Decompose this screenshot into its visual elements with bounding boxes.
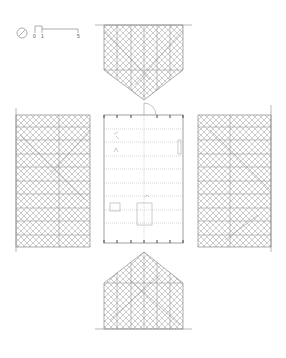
- scale-bar: 0 1 5: [33, 26, 80, 39]
- floor-plan: [104, 103, 183, 243]
- right-elevation: [198, 105, 271, 252]
- door-swing: [144, 103, 156, 115]
- scale-tick-0: 0: [33, 33, 36, 39]
- legend: 0 1 5: [17, 26, 80, 39]
- north-arrow-icon: [17, 28, 27, 38]
- scale-tick-1: 1: [41, 33, 44, 39]
- scale-tick-5: 5: [77, 33, 80, 39]
- architectural-drawing: 0 1 5: [0, 0, 286, 358]
- bottom-elevation: [95, 250, 192, 332]
- top-elevation: [95, 20, 192, 105]
- left-elevation: [16, 108, 90, 252]
